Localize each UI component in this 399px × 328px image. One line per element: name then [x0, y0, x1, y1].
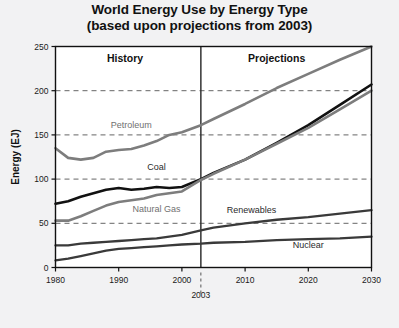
chart-plot-area: 050100150200250198019902000201020202030E… — [0, 0, 399, 328]
xtick-label-1990: 1990 — [109, 275, 128, 285]
ytick-label-150: 150 — [34, 130, 48, 140]
ytick-label-100: 100 — [34, 174, 48, 184]
y-axis-title: Energy (EJ) — [10, 129, 21, 185]
series-label-natural-gas: Natural Gas — [133, 204, 182, 214]
series-label-nuclear: Nuclear — [293, 240, 324, 250]
xtick-label-1980: 1980 — [46, 275, 65, 285]
chart-figure: World Energy Use by Energy Type (based u… — [0, 0, 399, 328]
ytick-label-250: 250 — [34, 42, 48, 52]
xtick-label-2010: 2010 — [236, 275, 255, 285]
series-label-renewables: Renewables — [227, 205, 277, 215]
annotation-divider-year: 2003 — [191, 290, 210, 300]
ytick-label-50: 50 — [39, 218, 49, 228]
series-label-coal: Coal — [147, 162, 166, 172]
annotation-history-region: History — [107, 52, 143, 64]
xtick-label-2020: 2020 — [299, 275, 318, 285]
ytick-label-0: 0 — [44, 263, 49, 273]
annotation-projections-region: Projections — [248, 52, 305, 64]
plot-background — [56, 47, 372, 268]
series-label-petroleum: Petroleum — [111, 120, 152, 130]
xtick-label-2030: 2030 — [362, 275, 381, 285]
ytick-label-200: 200 — [34, 86, 48, 96]
xtick-label-2000: 2000 — [172, 275, 191, 285]
